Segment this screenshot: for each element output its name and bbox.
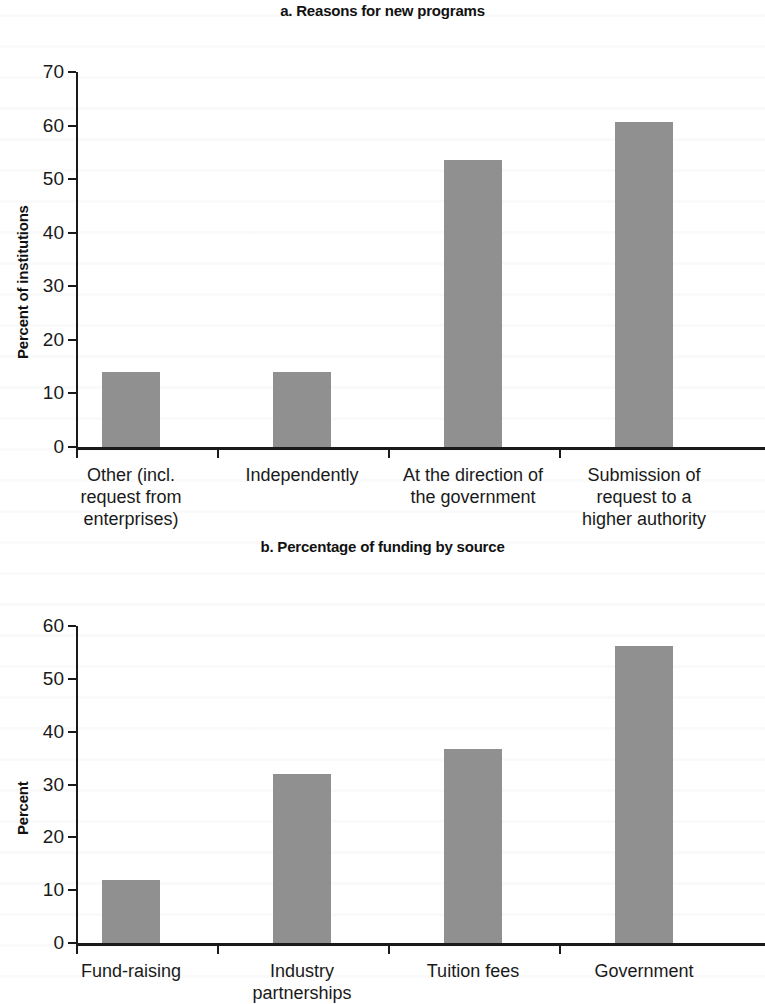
chart-b-y-axis-line xyxy=(76,626,78,945)
chart-panel-b: b. Percentage of funding by source Perce… xyxy=(0,530,765,989)
chart-a-bar xyxy=(102,372,160,447)
chart-b-bar xyxy=(444,749,502,943)
chart-b-x-axis-label: Industrypartnerships xyxy=(219,960,386,1004)
chart-b-y-tick-label: 0 xyxy=(0,933,64,952)
chart-a-y-tick-label: 10 xyxy=(0,383,64,402)
chart-a-x-axis-label-line: Independently xyxy=(219,464,386,486)
chart-a-y-tick-label: 40 xyxy=(0,223,64,242)
chart-a-y-tick-label: 30 xyxy=(0,276,64,295)
chart-a-y-tick-mark xyxy=(68,285,76,287)
chart-a-y-tick-label: 50 xyxy=(0,169,64,188)
chart-a-x-tick-mark xyxy=(559,450,561,458)
chart-b-x-axis-label-line: Fund-raising xyxy=(48,960,215,982)
chart-a-bar xyxy=(273,372,331,447)
chart-panel-a: a. Reasons for new programs Percent of i… xyxy=(0,0,765,530)
chart-b-x-tick-mark xyxy=(388,946,390,954)
chart-a-x-axis-label-line: the government xyxy=(390,486,557,508)
chart-b-bar xyxy=(102,880,160,943)
chart-b-x-axis-line xyxy=(76,943,765,946)
chart-a-bar xyxy=(444,160,502,447)
chart-a-x-axis-label: Independently xyxy=(219,464,386,486)
chart-b-x-axis-label-line: Tuition fees xyxy=(390,960,557,982)
chart-a-x-axis-label: Other (incl.request fromenterprises) xyxy=(48,464,215,530)
chart-a-y-tick-mark xyxy=(68,125,76,127)
chart-b-y-tick-label: 50 xyxy=(0,669,64,688)
chart-a-title: a. Reasons for new programs xyxy=(0,0,765,19)
chart-a-y-tick-mark xyxy=(68,446,76,448)
chart-a-x-tick-mark xyxy=(388,450,390,458)
chart-a-x-axis-label-line: Other (incl. xyxy=(48,464,215,486)
chart-b-y-tick-mark xyxy=(68,731,76,733)
chart-a-x-axis-label-line: At the direction of xyxy=(390,464,557,486)
chart-b-y-tick-label: 60 xyxy=(0,616,64,635)
chart-a-y-tick-mark xyxy=(68,232,76,234)
chart-b-bar xyxy=(273,774,331,943)
chart-b-x-tick-mark xyxy=(559,946,561,954)
chart-a-y-tick-label: 0 xyxy=(0,437,64,456)
chart-a-y-tick-label: 20 xyxy=(0,330,64,349)
chart-a-y-tick-mark xyxy=(68,71,76,73)
chart-b-x-axis-label: Tuition fees xyxy=(390,960,557,982)
chart-a-x-tick-mark xyxy=(217,450,219,458)
chart-a-x-axis-label-line: Submission of xyxy=(561,464,728,486)
chart-a-bar xyxy=(615,122,673,447)
chart-a-x-axis-label-line: higher authority xyxy=(561,508,728,530)
chart-b-y-tick-label: 40 xyxy=(0,722,64,741)
chart-b-y-tick-mark xyxy=(68,836,76,838)
chart-a-x-axis-label-line: request from xyxy=(48,486,215,508)
chart-b-y-tick-mark xyxy=(68,942,76,944)
chart-b-x-axis-label-line: Industry xyxy=(219,960,386,982)
chart-b-bar xyxy=(615,646,673,943)
chart-b-x-axis-origin-tick xyxy=(76,946,78,954)
chart-a-y-tick-mark xyxy=(68,178,76,180)
chart-a-x-axis-label-line: request to a xyxy=(561,486,728,508)
chart-b-y-tick-mark xyxy=(68,678,76,680)
chart-a-x-axis-label: Submission ofrequest to ahigher authorit… xyxy=(561,464,728,530)
chart-b-y-tick-label: 30 xyxy=(0,775,64,794)
chart-a-y-tick-label: 60 xyxy=(0,116,64,135)
chart-a-x-axis-label: At the direction ofthe government xyxy=(390,464,557,508)
chart-a-y-tick-label: 70 xyxy=(0,62,64,81)
chart-a-y-tick-mark xyxy=(68,339,76,341)
chart-b-y-tick-mark xyxy=(68,784,76,786)
chart-a-x-axis-label-line: enterprises) xyxy=(48,508,215,530)
chart-b-y-tick-label: 20 xyxy=(0,827,64,846)
chart-b-y-tick-mark xyxy=(68,889,76,891)
chart-a-x-axis-line xyxy=(76,447,765,450)
chart-a-y-axis-line xyxy=(76,72,78,449)
chart-b-x-tick-mark xyxy=(217,946,219,954)
chart-b-x-axis-label: Fund-raising xyxy=(48,960,215,982)
chart-b-x-axis-label-line: Government xyxy=(561,960,728,982)
chart-b-x-axis-label-line: partnerships xyxy=(219,982,386,1004)
chart-a-y-tick-mark xyxy=(68,392,76,394)
chart-b-title: b. Percentage of funding by source xyxy=(0,530,765,555)
chart-b-y-tick-label: 10 xyxy=(0,880,64,899)
chart-b-x-axis-label: Government xyxy=(561,960,728,982)
chart-a-x-axis-origin-tick xyxy=(76,450,78,458)
chart-b-y-tick-mark xyxy=(68,625,76,627)
